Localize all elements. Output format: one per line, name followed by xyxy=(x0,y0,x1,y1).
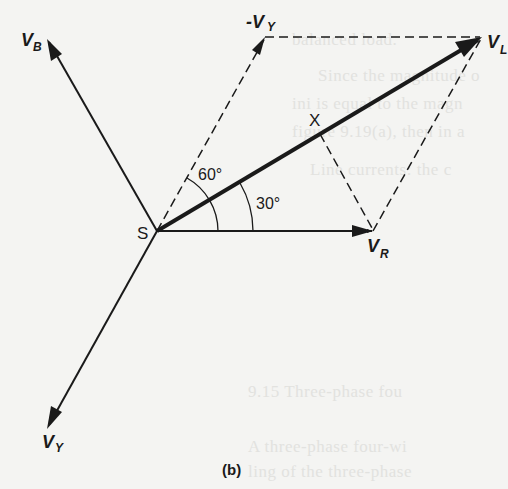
origin-label-s: S xyxy=(137,224,148,243)
angle-60-label: 60° xyxy=(198,166,222,183)
label-neg-vy-sub: Y xyxy=(267,20,276,34)
angle-30-label: 30° xyxy=(256,195,280,212)
figure-caption: (b) xyxy=(222,461,241,478)
label-vl-sub: L xyxy=(500,43,507,57)
label-vr-sub: R xyxy=(380,247,389,261)
label-vr: V xyxy=(367,236,381,256)
point-x-label: X xyxy=(309,111,320,130)
textbook-page: balanced load. Since the magnitude o ini… xyxy=(0,0,508,489)
vector-vy xyxy=(49,231,157,425)
label-vy-sub: Y xyxy=(55,441,64,455)
x-to-vr-dashed-line xyxy=(320,134,372,228)
label-vy: V xyxy=(42,432,56,452)
vector-vb xyxy=(49,42,157,231)
vb-arrowhead xyxy=(47,39,62,61)
vl-arrowhead xyxy=(455,37,482,57)
phasor-diagram: S X 60° 30° V B -V Y V L V R V Y (b) xyxy=(0,0,508,489)
label-vb-sub: B xyxy=(33,40,42,54)
vy-arrowhead xyxy=(47,406,62,429)
vector-vl xyxy=(157,40,478,231)
neg-vy-arrowhead xyxy=(252,37,265,55)
vr-to-vl-dashed-line xyxy=(373,37,482,231)
arc-30 xyxy=(240,183,253,231)
label-vl: V xyxy=(487,32,501,52)
label-neg-vy: -V xyxy=(246,12,266,32)
